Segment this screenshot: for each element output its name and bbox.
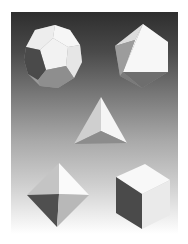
cube xyxy=(116,164,170,229)
icosahedron xyxy=(115,24,168,88)
tetrahedron xyxy=(74,97,127,144)
dodecahedron xyxy=(24,25,82,88)
octahedron xyxy=(27,163,89,227)
platonic-solids-illustration xyxy=(0,0,188,244)
